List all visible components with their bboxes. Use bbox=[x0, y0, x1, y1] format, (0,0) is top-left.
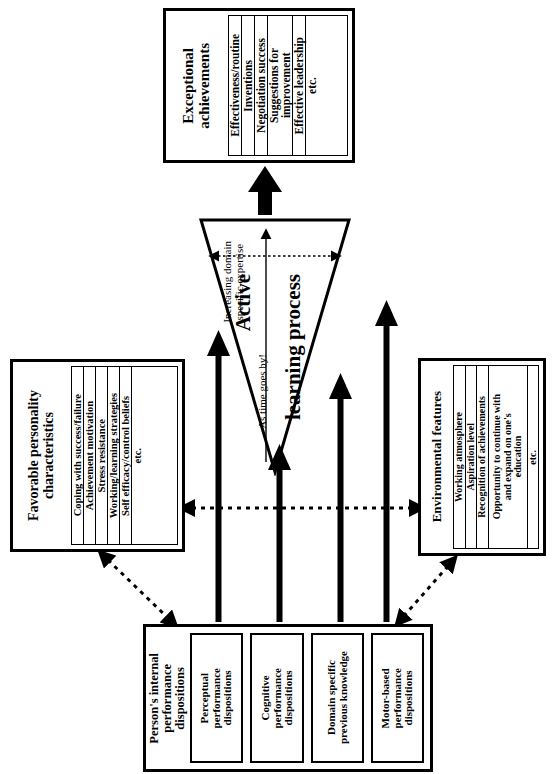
subbox-perceptual: Perceptual performance dispositions bbox=[190, 633, 243, 763]
list-item: etc. bbox=[528, 366, 539, 548]
box-right-title: Environmental features bbox=[421, 361, 453, 553]
triangle-label-expertise: Increasing domain specific expertise bbox=[222, 241, 245, 323]
list-item: Achievement motivation bbox=[84, 367, 96, 544]
subbox-domain-knowledge: Domain specific previous knowledge bbox=[311, 633, 364, 763]
list-item: Recognition of achievements bbox=[477, 366, 489, 548]
list-item: etc. bbox=[132, 367, 143, 544]
box-bottom-title: Person's internal performance dispositio… bbox=[146, 627, 190, 769]
box-right-title-text: Environmental features bbox=[430, 391, 444, 522]
triangle-label-time: As time goes by! bbox=[257, 354, 269, 429]
box-bottom-subbox-list: Perceptual performance dispositions Cogn… bbox=[190, 627, 430, 769]
box-top-item-list: Effectiveness/routine Inventions Negotia… bbox=[228, 15, 348, 156]
box-exceptional-achievements: Exceptional achievements Effectiveness/r… bbox=[163, 8, 355, 163]
arrow-right-bottom-bidirectional bbox=[404, 566, 448, 616]
list-item: Inventions bbox=[242, 16, 255, 155]
list-item: Coping with success/failure bbox=[72, 367, 84, 544]
diagram-canvas: Exceptional achievements Effectiveness/r… bbox=[0, 0, 556, 774]
box-favorable-personality-characteristics: Favorable personality characteristics Co… bbox=[10, 359, 185, 552]
arrow-motor-to-triangle bbox=[375, 300, 398, 622]
triangle-active-learning-process: Active learning process As time goes by!… bbox=[196, 216, 354, 476]
box-left-title-text: Favorable personality characteristics bbox=[27, 390, 56, 521]
list-item: Self efficacy/control beliefs bbox=[120, 367, 132, 544]
box-environmental-features: Environmental features Working atmospher… bbox=[418, 358, 546, 556]
box-top-title-text: Exceptional achievements bbox=[181, 43, 213, 129]
list-item: Opportunity to continue with and expand … bbox=[489, 366, 528, 548]
list-item: Working/learning strategies bbox=[108, 367, 120, 544]
box-top-title: Exceptional achievements bbox=[166, 11, 228, 160]
list-item: Suggestions for improvement bbox=[268, 16, 293, 155]
list-item: Working atmosphere bbox=[454, 366, 466, 548]
list-item: Negotiation success bbox=[255, 16, 268, 155]
list-item: etc. bbox=[306, 16, 318, 155]
arrow-triangle-to-top bbox=[248, 166, 282, 215]
triangle-label-learning-process: learning process bbox=[282, 274, 304, 420]
subbox-cognitive: Cognitive performance dispositions bbox=[250, 633, 303, 763]
box-internal-performance-dispositions: Person's internal performance dispositio… bbox=[143, 624, 433, 772]
box-left-title: Favorable personality characteristics bbox=[13, 362, 71, 549]
list-item: Stress resistance bbox=[96, 367, 108, 544]
box-right-item-list: Working atmosphere Aspiration level Reco… bbox=[453, 365, 539, 549]
list-item: Effectiveness/routine bbox=[229, 16, 242, 155]
box-bottom-title-text: Person's internal performance dispositio… bbox=[148, 653, 187, 744]
arrow-left-bottom-bidirectional bbox=[108, 560, 168, 618]
subbox-motor-based: Motor-based performance dispositions bbox=[371, 633, 424, 763]
box-left-item-list: Coping with success/failure Achievement … bbox=[71, 366, 178, 545]
list-item: Effective leadership bbox=[293, 16, 306, 155]
